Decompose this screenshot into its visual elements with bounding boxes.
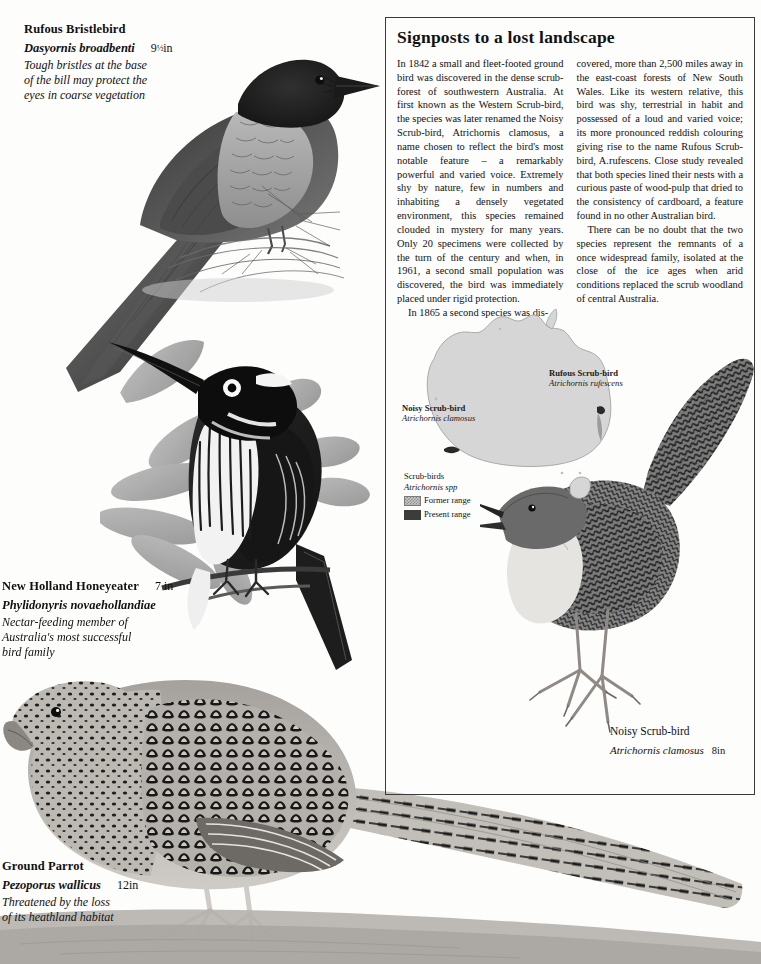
article-columns: In 1842 a small and fleet-footed ground … [397, 57, 743, 320]
caption-note: Threatened by the loss of its heathland … [2, 895, 232, 925]
caption-size: 7 in [155, 579, 173, 593]
caption-common-name: Rufous Bristlebird [24, 22, 125, 37]
article-column-right: covered, more than 2,500 miles away in t… [577, 57, 744, 320]
article-paragraph: In 1842 a small and fleet-footed ground … [397, 57, 564, 306]
article-paragraph: There can be no doubt that the two speci… [577, 223, 744, 306]
legend-title: Scrub-birds [404, 471, 471, 482]
caption-common-name: Ground Parrot [2, 859, 84, 874]
legend-row-former: Former range [404, 495, 471, 506]
caption-note-line: Tough bristles at the base [24, 58, 254, 73]
distribution-map: Noisy Scrub-bird Atrichornis clamosus Ru… [394, 303, 644, 563]
map-label-common: Rufous Scrub-bird [549, 368, 623, 378]
caption-note: Nectar-feeding member of Australia's mos… [2, 615, 232, 660]
caption-common-name: New Holland Honeyeater [2, 579, 139, 594]
caption-note-line: Australia's most successful [2, 630, 232, 645]
legend-label: Former range [424, 495, 471, 506]
legend-label: Present range [424, 509, 471, 520]
legend-row-present: Present range [404, 509, 471, 520]
caption-ground-parrot: Ground Parrot Pezoporus wallicus12in Thr… [2, 856, 232, 925]
present-range-swatch-icon [404, 510, 421, 520]
plate-page: Rufous Bristlebird Dasyornis broadbenti9… [0, 0, 761, 964]
article-paragraph: covered, more than 2,500 miles away in t… [577, 57, 744, 223]
caption-scientific-name: Dasyornis broadbenti [24, 41, 135, 56]
caption-new-holland-honeyeater: New Holland Honeyeater7 in Phylidonyris … [2, 576, 232, 660]
former-range-swatch-icon [404, 496, 421, 506]
caption-scientific-name: Pezoporus wallicus [2, 878, 101, 893]
caption-note-line: bird family [2, 645, 232, 660]
map-label-noisy-scrub-bird: Noisy Scrub-bird Atrichornis clamosus [402, 403, 475, 424]
map-label-scientific: Atrichornis clamosus [402, 413, 475, 423]
caption-note-line: eyes in coarse vegetation [24, 88, 254, 103]
article-panel: Signposts to a lost landscape In 1842 a … [385, 17, 755, 795]
caption-note-line: Nectar-feeding member of [2, 615, 232, 630]
map-label-scientific: Atrichornis rufescens [549, 378, 623, 388]
caption-note-line: of the bill may protect the [24, 73, 254, 88]
caption-note-line: Threatened by the loss [2, 895, 232, 910]
caption-scientific-name: Phylidonyris novaehollandiae [2, 598, 156, 613]
caption-note-line: of its heathland habitat [2, 910, 232, 925]
caption-rufous-bristlebird: Rufous Bristlebird Dasyornis broadbenti9… [24, 19, 254, 103]
article-column-left: In 1842 a small and fleet-footed ground … [397, 57, 564, 320]
caption-note: Tough bristles at the base of the bill m… [24, 58, 254, 103]
map-legend: Scrub-birds Atrichornis spp Former range… [404, 471, 471, 520]
map-label-rufous-scrub-bird: Rufous Scrub-bird Atrichornis rufescens [549, 368, 623, 389]
map-label-common: Noisy Scrub-bird [402, 403, 475, 413]
article-title: Signposts to a lost landscape [397, 27, 754, 48]
caption-size: 12in [117, 878, 138, 892]
legend-scientific: Atrichornis spp [404, 482, 471, 493]
caption-size: 9½in [151, 41, 173, 55]
